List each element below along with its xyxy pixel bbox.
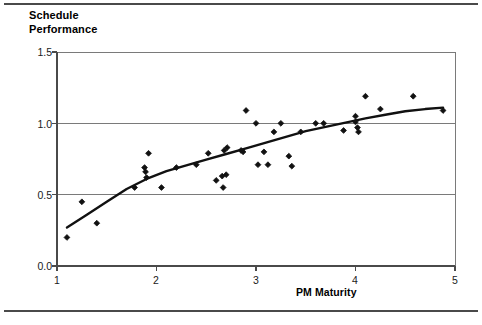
y-tick-label-1-0: 1.0 bbox=[18, 118, 52, 130]
data-point-marker bbox=[146, 150, 152, 156]
scatter-plot-svg bbox=[0, 0, 482, 325]
axes-group bbox=[57, 52, 455, 266]
data-point-marker bbox=[243, 108, 249, 114]
data-point-marker bbox=[205, 150, 211, 156]
x-tick-label-3: 3 bbox=[246, 274, 266, 286]
y-tick-label-0-0: 0.0 bbox=[18, 260, 52, 272]
x-tick-label-1: 1 bbox=[47, 274, 67, 286]
x-tick-label-4: 4 bbox=[345, 274, 365, 286]
data-point-marker bbox=[363, 93, 369, 99]
data-point-marker bbox=[265, 162, 271, 168]
data-point-marker bbox=[64, 235, 70, 241]
data-point-marker bbox=[289, 163, 295, 169]
data-point-marker bbox=[94, 220, 100, 226]
data-point-marker bbox=[286, 153, 292, 159]
x-tick-label-5: 5 bbox=[445, 274, 465, 286]
data-point-marker bbox=[321, 120, 327, 126]
data-point-marker bbox=[410, 93, 416, 99]
data-point-marker bbox=[261, 149, 267, 155]
data-point-marker bbox=[255, 162, 261, 168]
data-point-marker bbox=[220, 185, 226, 191]
plot-area: 1.5 1.0 0.5 0.0 1 2 3 4 5 bbox=[0, 0, 482, 325]
data-point-marker bbox=[271, 129, 277, 135]
data-point-marker bbox=[353, 113, 359, 119]
data-point-marker bbox=[159, 185, 165, 191]
y-tick-label-1-5: 1.5 bbox=[18, 46, 52, 58]
data-point-marker bbox=[79, 199, 85, 205]
figure-container: Schedule Performance PM Maturity 1.5 1.0… bbox=[0, 0, 482, 325]
data-point-marker bbox=[377, 106, 383, 112]
data-point-marker bbox=[278, 120, 284, 126]
data-point-marker bbox=[341, 128, 347, 134]
x-tick-label-2: 2 bbox=[146, 274, 166, 286]
gridlines-group bbox=[57, 52, 455, 266]
data-point-marker bbox=[253, 120, 259, 126]
tick-marks-group bbox=[52, 52, 455, 271]
data-point-marker bbox=[313, 120, 319, 126]
y-tick-label-0-5: 0.5 bbox=[18, 189, 52, 201]
data-point-marker bbox=[213, 178, 219, 184]
